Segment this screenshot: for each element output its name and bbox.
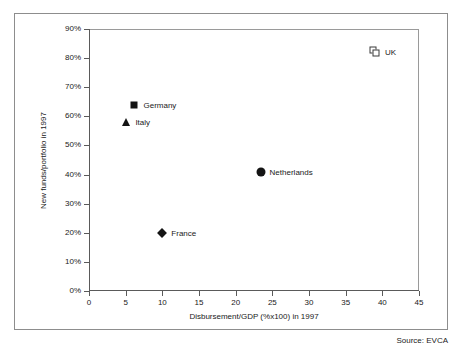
x-axis-tick-label: 40 bbox=[378, 299, 387, 307]
y-axis-tick-label: 10% bbox=[65, 258, 81, 266]
square-outline-front bbox=[373, 50, 380, 57]
x-axis-tick-label: 20 bbox=[231, 299, 240, 307]
filled-diamond-marker-icon bbox=[157, 228, 167, 238]
y-axis-tick-label: 20% bbox=[65, 229, 81, 237]
data-point-label: Italy bbox=[135, 118, 150, 127]
x-axis-line bbox=[89, 290, 419, 291]
y-axis-tick-label: 90% bbox=[65, 25, 81, 33]
y-axis-tick bbox=[84, 116, 89, 117]
y-axis-tick bbox=[84, 29, 89, 30]
x-axis-tick-label: 15 bbox=[195, 299, 204, 307]
x-axis-tick-label: 5 bbox=[123, 299, 127, 307]
plot-area: 0%10%20%30%40%50%60%70%80%90% 0510152025… bbox=[89, 29, 419, 291]
data-point-label: Netherlands bbox=[270, 167, 313, 176]
y-axis-tick-label: 50% bbox=[65, 141, 81, 149]
x-axis-tick-label: 25 bbox=[268, 299, 277, 307]
x-axis-tick bbox=[419, 291, 420, 296]
x-axis-tick-label: 30 bbox=[305, 299, 314, 307]
x-axis-tick-label: 10 bbox=[158, 299, 167, 307]
y-axis-tick-label: 80% bbox=[65, 54, 81, 62]
x-axis-tick bbox=[162, 291, 163, 296]
y-axis-tick bbox=[84, 233, 89, 234]
y-axis-tick bbox=[84, 175, 89, 176]
data-point-label: France bbox=[171, 228, 196, 237]
x-axis-tick bbox=[382, 291, 383, 296]
x-axis-tick bbox=[89, 291, 90, 296]
filled-triangle-marker-icon bbox=[122, 118, 130, 126]
y-axis-title-text: New funds/portfolio in 1997 bbox=[39, 112, 48, 209]
source-note: Source: EVCA bbox=[396, 336, 448, 345]
y-axis-tick bbox=[84, 262, 89, 263]
y-axis-tick-label: 40% bbox=[65, 171, 81, 179]
x-axis-title-text: Disbursement/GDP (%x100) in 1997 bbox=[189, 312, 318, 321]
y-axis-tick bbox=[84, 145, 89, 146]
filled-square-marker-icon bbox=[131, 101, 138, 108]
x-axis-tick bbox=[199, 291, 200, 296]
filled-circle-marker-icon bbox=[256, 167, 265, 176]
y-axis-line bbox=[89, 29, 90, 291]
x-axis-tick bbox=[236, 291, 237, 296]
y-axis-tick bbox=[84, 58, 89, 59]
y-axis-tick bbox=[84, 204, 89, 205]
x-axis-tick-label: 0 bbox=[87, 299, 91, 307]
x-axis-tick bbox=[346, 291, 347, 296]
plot-top-border bbox=[89, 29, 419, 30]
y-axis-tick-label: 0% bbox=[69, 287, 81, 295]
y-axis-title: New funds/portfolio in 1997 bbox=[37, 29, 49, 291]
chart-frame: 0%10%20%30%40%50%60%70%80%90% 0510152025… bbox=[14, 13, 448, 330]
x-axis-tick bbox=[309, 291, 310, 296]
y-axis-tick-label: 70% bbox=[65, 83, 81, 91]
x-axis-tick bbox=[126, 291, 127, 296]
data-point-label: Germany bbox=[143, 100, 176, 109]
open-double-square-marker-icon bbox=[370, 47, 381, 58]
x-axis-tick-label: 45 bbox=[415, 299, 424, 307]
data-point-label: UK bbox=[385, 48, 396, 57]
y-axis-tick-label: 60% bbox=[65, 112, 81, 120]
y-axis-tick bbox=[84, 87, 89, 88]
x-axis-tick bbox=[272, 291, 273, 296]
x-axis-tick-label: 35 bbox=[341, 299, 350, 307]
x-axis-title: Disbursement/GDP (%x100) in 1997 bbox=[89, 312, 419, 321]
plot-right-border bbox=[418, 29, 419, 291]
y-axis-tick-label: 30% bbox=[65, 200, 81, 208]
